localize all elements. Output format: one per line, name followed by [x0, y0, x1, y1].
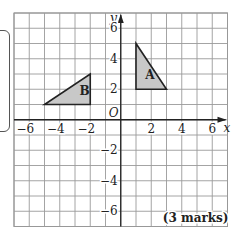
x-tick-label: 6 — [208, 122, 216, 136]
origin-label: O — [109, 106, 119, 120]
triangle-label-b: B — [80, 84, 90, 98]
y-tick-label: 2 — [110, 82, 118, 96]
y-tick-label: −2 — [100, 143, 118, 157]
y-tick-label: −4 — [100, 174, 118, 188]
x-axis-label: x — [224, 121, 231, 135]
coordinate-grid: AByxO−6−4−2246642−2−4−6(3 marks) — [0, 0, 237, 240]
x-tick-label: −6 — [16, 122, 34, 136]
y-tick-label: 4 — [110, 52, 118, 66]
y-tick-label: 6 — [110, 21, 118, 35]
coordinate-diagram: AByxO−6−4−2246642−2−4−6(3 marks) (3 mark… — [0, 0, 237, 240]
marks-label: (3 marks) — [163, 211, 229, 225]
y-tick-label: −6 — [100, 204, 118, 218]
x-tick-label: 2 — [147, 122, 155, 136]
x-tick-label: 4 — [178, 122, 186, 136]
x-tick-label: −4 — [47, 122, 65, 136]
triangle-label-a: A — [144, 68, 155, 82]
x-tick-label: −2 — [77, 122, 95, 136]
